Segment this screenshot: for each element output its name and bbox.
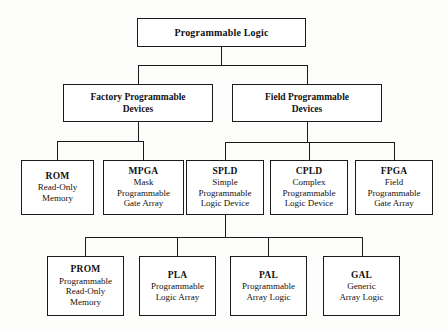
node-gal-acronym: GAL bbox=[351, 270, 372, 281]
node-mpga-acronym: MPGA bbox=[129, 166, 159, 177]
node-factory-line-1: Factory Programmable bbox=[90, 91, 185, 103]
node-gal-line-1: Generic bbox=[347, 281, 375, 292]
programmable-logic-hierarchy-diagram: Programmable Logic Factory Programmable … bbox=[0, 0, 448, 331]
node-spld-acronym: SPLD bbox=[212, 166, 237, 177]
node-prom-acronym: PROM bbox=[71, 264, 101, 275]
node-mpga-line-2: Programmable bbox=[117, 188, 170, 199]
connector-to-gal bbox=[362, 237, 363, 256]
node-pla: PLA Programmable Logic Array bbox=[139, 256, 216, 316]
connector-factory-stem bbox=[138, 122, 139, 141]
node-prom-line-2: Read-Only bbox=[66, 286, 106, 297]
node-rom-line-2: Memory bbox=[42, 193, 73, 204]
node-pla-line-2: Logic Array bbox=[156, 292, 200, 303]
connector-field-stem bbox=[307, 122, 308, 142]
node-mpga-line-1: Mask bbox=[134, 177, 154, 188]
node-fpga-acronym: FPGA bbox=[381, 166, 408, 177]
node-spld-line-1: Simple bbox=[212, 177, 238, 188]
connector-to-field bbox=[307, 65, 308, 84]
node-pla-acronym: PLA bbox=[168, 270, 188, 281]
node-programmable-logic-label: Programmable Logic bbox=[174, 27, 268, 39]
node-fpga-line-3: Gate Array bbox=[374, 198, 414, 209]
connector-to-prom bbox=[85, 237, 86, 256]
node-prom-line-1: Programmable bbox=[59, 276, 112, 287]
connector-to-fpga bbox=[394, 142, 395, 160]
node-mpga: MPGA Mask Programmable Gate Array bbox=[103, 160, 184, 215]
connector-level2-bus bbox=[138, 65, 308, 66]
connector-to-factory bbox=[138, 65, 139, 84]
connector-root-stem bbox=[221, 47, 222, 65]
connector-to-pla bbox=[177, 237, 178, 256]
node-spld: SPLD Simple Programmable Logic Device bbox=[186, 160, 264, 215]
node-gal: GAL Generic Array Logic bbox=[323, 256, 400, 316]
node-factory-line-2: Devices bbox=[123, 103, 154, 115]
connector-to-spld bbox=[225, 142, 226, 160]
node-pla-line-1: Programmable bbox=[151, 281, 204, 292]
node-factory-programmable-devices: Factory Programmable Devices bbox=[63, 84, 213, 122]
connector-to-cpld bbox=[309, 142, 310, 160]
node-pal-acronym: PAL bbox=[259, 270, 278, 281]
node-pal-line-2: Array Logic bbox=[246, 292, 290, 303]
node-fpga-line-1: Field bbox=[385, 177, 404, 188]
node-pal-line-1: Programmable bbox=[242, 281, 295, 292]
node-rom-line-1: Read-Only bbox=[38, 182, 78, 193]
connector-spld-bus bbox=[85, 237, 362, 238]
node-pal: PAL Programmable Array Logic bbox=[230, 256, 307, 316]
connector-to-mpga bbox=[143, 141, 144, 160]
node-field-line-1: Field Programmable bbox=[265, 91, 349, 103]
node-cpld-line-2: Programmable bbox=[283, 188, 336, 199]
connector-to-rom bbox=[57, 141, 58, 160]
connector-spld-stem bbox=[225, 215, 226, 237]
node-cpld-acronym: CPLD bbox=[296, 166, 323, 177]
node-cpld: CPLD Complex Programmable Logic Device bbox=[270, 160, 348, 215]
node-fpga-line-2: Programmable bbox=[368, 188, 421, 199]
node-field-line-2: Devices bbox=[292, 103, 323, 115]
node-prom: PROM Programmable Read-Only Memory bbox=[47, 256, 124, 316]
node-field-programmable-devices: Field Programmable Devices bbox=[232, 84, 382, 122]
node-cpld-line-1: Complex bbox=[293, 177, 326, 188]
node-programmable-logic: Programmable Logic bbox=[137, 18, 306, 47]
connector-to-pal bbox=[268, 237, 269, 256]
node-prom-line-3: Memory bbox=[70, 297, 101, 308]
connector-factory-bus bbox=[57, 141, 144, 142]
node-spld-line-2: Programmable bbox=[199, 188, 252, 199]
node-spld-line-3: Logic Device bbox=[201, 198, 250, 209]
node-cpld-line-3: Logic Device bbox=[285, 198, 334, 209]
node-mpga-line-3: Gate Array bbox=[124, 198, 164, 209]
node-rom: ROM Read-Only Memory bbox=[21, 160, 94, 215]
node-fpga: FPGA Field Programmable Gate Array bbox=[355, 160, 433, 215]
node-rom-acronym: ROM bbox=[46, 171, 70, 182]
node-gal-line-2: Array Logic bbox=[339, 292, 383, 303]
